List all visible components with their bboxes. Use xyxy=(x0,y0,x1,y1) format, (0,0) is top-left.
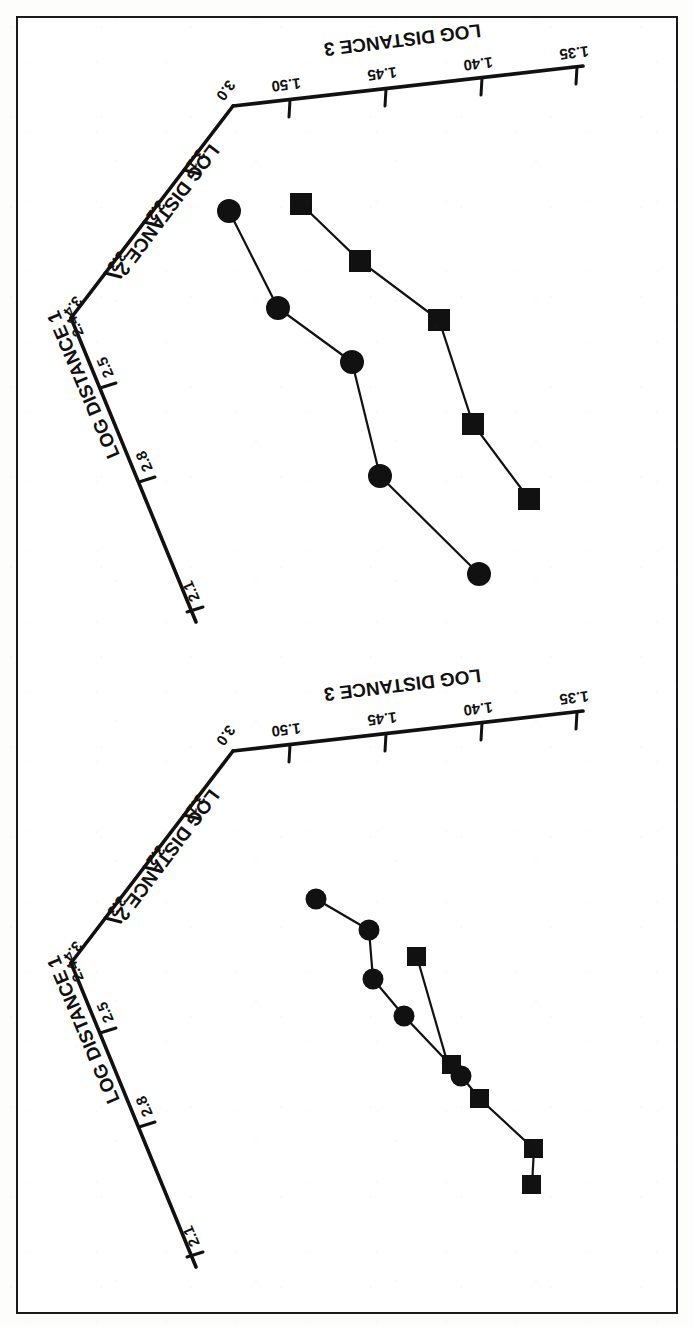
data-point-square[interactable] xyxy=(462,413,484,435)
plot-panel-bottom: 1.35 1.40 1.45 1.50 3.0 3.1 3.2 3.3 3.4 … xyxy=(14,14,676,663)
y-tick-label: 3.0 xyxy=(213,77,239,104)
z-tick-label: 1.50 xyxy=(271,75,302,95)
series-square-line xyxy=(417,957,534,1185)
series-square-line xyxy=(301,204,529,499)
data-point-circle[interactable] xyxy=(394,1006,415,1027)
axis-line-x xyxy=(71,963,196,1267)
figure-sheet: 1.35 1.40 1.45 1.50 3.0 3.1 3.2 3.3 3.4 … xyxy=(0,0,693,1327)
data-point-square[interactable] xyxy=(290,193,312,215)
x-ticks xyxy=(100,383,203,612)
z-ticks xyxy=(289,712,577,762)
data-point-circle[interactable] xyxy=(217,199,241,223)
x-tick-label: 2.1 xyxy=(179,579,203,605)
z-tick-label: 1.45 xyxy=(367,709,398,729)
axis-line-x xyxy=(71,318,196,622)
axis-group-top xyxy=(71,711,583,1267)
data-point-circle[interactable] xyxy=(359,920,380,941)
y-tick-label: 3.0 xyxy=(213,722,239,749)
data-point-square[interactable] xyxy=(407,947,426,966)
x-ticks xyxy=(100,1028,203,1257)
axis-title-y: LOG DISTANCE 2 xyxy=(112,141,224,280)
data-point-circle[interactable] xyxy=(451,1066,472,1087)
data-point-circle[interactable] xyxy=(266,296,290,320)
series-square-top[interactable] xyxy=(407,947,543,1194)
z-ticks xyxy=(289,67,577,117)
data-point-square[interactable] xyxy=(522,1175,541,1194)
z-tick-label: 1.35 xyxy=(559,688,590,708)
series-square-bottom[interactable] xyxy=(290,193,540,510)
x-tick-label: 2.1 xyxy=(179,1224,203,1250)
data-point-square[interactable] xyxy=(518,488,540,510)
data-point-square[interactable] xyxy=(470,1089,489,1108)
axis-title-y: LOG DISTANCE 2 xyxy=(112,786,224,925)
plot-svg-top: 1.35 1.40 1.45 1.50 3.0 3.1 3.2 3.3 3.4 … xyxy=(14,663,676,1312)
figure-border: 1.35 1.40 1.45 1.50 3.0 3.1 3.2 3.3 3.4 … xyxy=(16,16,678,1314)
data-point-square[interactable] xyxy=(349,250,371,272)
data-point-circle[interactable] xyxy=(363,969,384,990)
plot-svg-bottom: 1.35 1.40 1.45 1.50 3.0 3.1 3.2 3.3 3.4 … xyxy=(14,14,676,663)
data-point-circle[interactable] xyxy=(368,464,392,488)
z-tick-label: 1.50 xyxy=(271,720,302,740)
axis-tick-labels-top: 1.35 1.40 1.45 1.50 3.0 3.1 3.2 3.3 3.4 … xyxy=(60,688,590,1249)
data-point-circle[interactable] xyxy=(467,562,491,586)
z-tick-label: 1.40 xyxy=(463,54,494,74)
scanned-page: 1.35 1.40 1.45 1.50 3.0 3.1 3.2 3.3 3.4 … xyxy=(0,0,693,1327)
axis-title-z: LOG DISTANCE 3 xyxy=(323,20,482,60)
axis-title-z: LOG DISTANCE 3 xyxy=(323,665,482,705)
axis-tick-labels-bottom: 1.35 1.40 1.45 1.50 3.0 3.1 3.2 3.3 3.4 … xyxy=(60,43,590,604)
z-tick-label: 1.45 xyxy=(367,64,398,84)
plot-panel-top: 1.35 1.40 1.45 1.50 3.0 3.1 3.2 3.3 3.4 … xyxy=(14,663,676,1312)
data-point-circle[interactable] xyxy=(306,889,327,910)
z-tick-label: 1.35 xyxy=(559,43,590,63)
z-tick-label: 1.40 xyxy=(463,699,494,719)
data-point-circle[interactable] xyxy=(340,350,364,374)
series-circle-line xyxy=(316,899,461,1076)
data-point-square[interactable] xyxy=(524,1139,543,1158)
data-point-square[interactable] xyxy=(428,309,450,331)
